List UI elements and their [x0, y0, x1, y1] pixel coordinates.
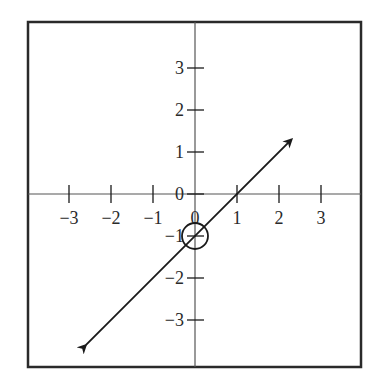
- y-tick-label: −2: [165, 268, 184, 288]
- x-tick-label: −1: [143, 208, 162, 228]
- y-tick-label: 1: [175, 142, 184, 162]
- coordinate-plane: −3−2−101233210−1−2−3: [0, 0, 378, 382]
- y-tick-label: 3: [175, 58, 184, 78]
- x-tick-label: 0: [191, 208, 200, 228]
- x-tick-label: −3: [59, 208, 78, 228]
- x-tick-label: 2: [275, 208, 284, 228]
- x-tick-label: −2: [101, 208, 120, 228]
- y-tick-label: −3: [165, 310, 184, 330]
- x-tick-label: 3: [317, 208, 326, 228]
- y-tick-label: 0: [175, 184, 184, 204]
- x-tick-label: 1: [233, 208, 242, 228]
- y-tick-label: 2: [175, 100, 184, 120]
